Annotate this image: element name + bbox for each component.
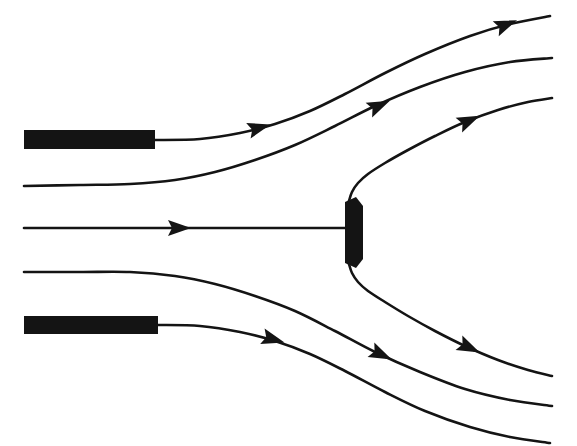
streamline-figure-canvas <box>0 0 577 446</box>
streamline-figure-svg <box>0 0 577 446</box>
upper-plate <box>24 130 155 149</box>
blunt-body <box>345 197 363 268</box>
lower-plate <box>24 316 158 334</box>
